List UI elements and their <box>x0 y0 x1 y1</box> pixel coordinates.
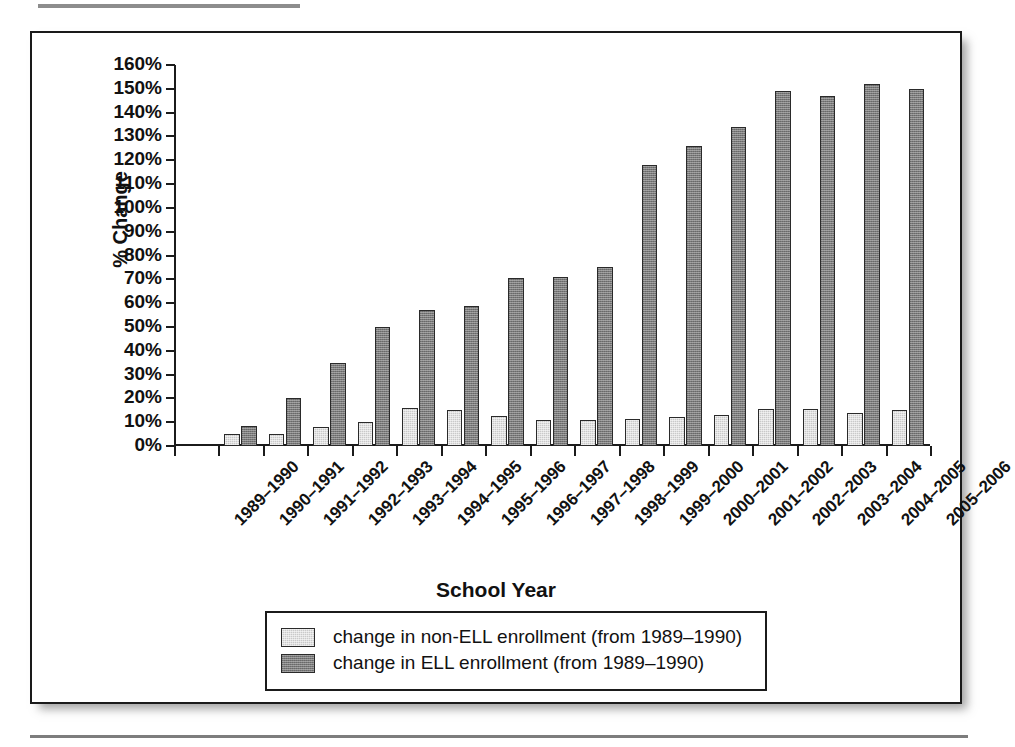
x-tick <box>841 446 843 456</box>
y-tick-label: 120% <box>70 148 162 170</box>
bar-group <box>263 65 307 446</box>
bar-non-ell <box>758 409 774 446</box>
bar-ell <box>330 363 346 446</box>
bar-ell <box>419 310 435 446</box>
y-tick-label: 50% <box>70 315 162 337</box>
bar-ell <box>375 327 391 446</box>
y-tick-label: 70% <box>70 267 162 289</box>
bar-non-ell <box>892 410 908 446</box>
y-tick-label: 150% <box>70 77 162 99</box>
y-tick-label: 40% <box>70 339 162 361</box>
legend-label-ell: change in ELL enrollment (from 1989–1990… <box>333 652 704 674</box>
x-tick <box>485 446 487 456</box>
bar-group <box>619 65 663 446</box>
x-tick <box>218 446 220 456</box>
x-tick <box>930 446 932 456</box>
legend-swatch-non-ell-icon <box>281 628 315 647</box>
y-tick-label: 30% <box>70 363 162 385</box>
bar-ell <box>864 84 880 446</box>
x-tick <box>619 446 621 456</box>
y-tick-label: 80% <box>70 244 162 266</box>
x-tick <box>886 446 888 456</box>
y-tick-label: 100% <box>70 196 162 218</box>
bar-non-ell <box>447 410 463 446</box>
y-tick-label: 0% <box>70 434 162 456</box>
bars-layer <box>174 65 930 446</box>
bar-ell <box>909 89 925 446</box>
y-tick-label: 110% <box>70 172 162 194</box>
y-tick-label: 10% <box>70 410 162 432</box>
y-tick-label: 160% <box>70 53 162 75</box>
bar-group <box>352 65 396 446</box>
x-tick <box>708 446 710 456</box>
legend-item: change in non-ELL enrollment (from 1989–… <box>281 626 751 648</box>
bar-ell <box>464 306 480 446</box>
bar-ell <box>642 165 658 446</box>
bar-non-ell <box>847 413 863 446</box>
bar-group <box>530 65 574 446</box>
bar-non-ell <box>580 420 596 446</box>
x-tick <box>752 446 754 456</box>
bar-group <box>886 65 930 446</box>
bar-non-ell <box>669 417 685 446</box>
bar-ell <box>820 96 836 446</box>
plot-area: % Change 160%150%140%130%120%110%100%90%… <box>32 33 960 702</box>
bar-group <box>396 65 440 446</box>
bar-non-ell <box>358 422 374 446</box>
bottom-rule <box>30 735 968 738</box>
bar-non-ell <box>313 427 329 446</box>
bar-group <box>752 65 796 446</box>
y-tick-label: 60% <box>70 291 162 313</box>
y-tick-label: 140% <box>70 101 162 123</box>
chart-legend: change in non-ELL enrollment (from 1989–… <box>265 611 767 691</box>
bar-group <box>485 65 529 446</box>
bar-non-ell <box>714 415 730 446</box>
bar-ell <box>553 277 569 446</box>
top-rule <box>38 4 300 8</box>
bar-ell <box>731 127 747 446</box>
figure-frame: % Change 160%150%140%130%120%110%100%90%… <box>30 31 962 704</box>
x-tick <box>352 446 354 456</box>
bar-group <box>174 65 218 446</box>
x-axis-title: School Year <box>32 578 960 602</box>
bar-ell <box>686 146 702 446</box>
y-tick-label: 20% <box>70 386 162 408</box>
bar-non-ell <box>224 434 240 446</box>
bar-ell <box>775 91 791 446</box>
bar-non-ell <box>269 434 285 446</box>
bar-non-ell <box>803 409 819 446</box>
bar-non-ell <box>536 420 552 446</box>
x-tick <box>396 446 398 456</box>
bar-group <box>574 65 618 446</box>
x-tick <box>174 446 176 456</box>
bar-group <box>663 65 707 446</box>
x-tick <box>263 446 265 456</box>
x-tick <box>530 446 532 456</box>
bar-ell <box>508 278 524 446</box>
bar-ell <box>286 398 302 446</box>
bar-non-ell <box>625 419 641 446</box>
bar-group <box>708 65 752 446</box>
bar-ell <box>597 267 613 446</box>
legend-label-non-ell: change in non-ELL enrollment (from 1989–… <box>333 626 742 648</box>
y-tick-label: 90% <box>70 220 162 242</box>
x-tick <box>307 446 309 456</box>
bar-ell <box>241 426 257 446</box>
legend-swatch-ell-icon <box>281 654 315 673</box>
x-tick <box>797 446 799 456</box>
x-tick <box>574 446 576 456</box>
bar-non-ell <box>402 408 418 446</box>
legend-item: change in ELL enrollment (from 1989–1990… <box>281 652 751 674</box>
x-tick <box>663 446 665 456</box>
y-tick-label: 130% <box>70 124 162 146</box>
x-tick <box>441 446 443 456</box>
bar-group <box>797 65 841 446</box>
bar-group <box>441 65 485 446</box>
bar-group <box>841 65 885 446</box>
x-axis-labels: 1989–19901990–19911991–19921992–19931993… <box>174 457 934 577</box>
bar-non-ell <box>491 416 507 446</box>
bar-group <box>307 65 351 446</box>
bar-group <box>218 65 262 446</box>
